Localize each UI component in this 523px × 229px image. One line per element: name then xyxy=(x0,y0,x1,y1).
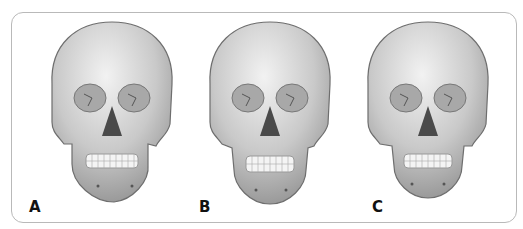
panel-c xyxy=(348,14,508,214)
skull-illustration-a xyxy=(32,14,192,214)
panel-label-a: A xyxy=(29,198,41,216)
skull-illustration-b xyxy=(190,14,350,214)
panel-a xyxy=(32,14,192,214)
skull-illustration-c xyxy=(348,14,508,214)
panel-b xyxy=(190,14,350,214)
panel-label-b: B xyxy=(199,198,210,216)
panel-label-c: C xyxy=(372,198,383,216)
